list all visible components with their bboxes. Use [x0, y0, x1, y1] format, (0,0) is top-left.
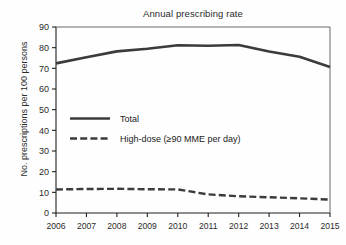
- x-tick-label: 2014: [290, 221, 309, 231]
- y-tick-label: 30: [39, 146, 49, 156]
- legend-label-high-dose: High-dose (≥90 MME per day): [120, 134, 241, 144]
- x-tick-label: 2007: [77, 221, 96, 231]
- y-tick-group: 0102030405060708090: [39, 22, 56, 218]
- x-tick-label: 2013: [260, 221, 279, 231]
- legend-label-total: Total: [120, 114, 139, 124]
- chart-figure: Annual prescribing rate No. prescription…: [0, 0, 346, 245]
- plot-area: 0102030405060708090 20062007200820092010…: [0, 0, 346, 245]
- x-tick-label: 2006: [46, 221, 65, 231]
- y-tick-label: 90: [39, 22, 49, 32]
- series-line-high-dose: [56, 189, 330, 200]
- y-tick-label: 80: [39, 43, 49, 53]
- x-tick-group: 2006200720082009201020112012201320142015: [46, 213, 339, 231]
- y-tick-label: 70: [39, 64, 49, 74]
- y-tick-label: 0: [44, 208, 49, 218]
- y-tick-label: 10: [39, 188, 49, 198]
- y-tick-label: 50: [39, 105, 49, 115]
- x-tick-label: 2015: [320, 221, 339, 231]
- x-tick-label: 2010: [168, 221, 187, 231]
- y-tick-label: 20: [39, 167, 49, 177]
- x-tick-label: 2011: [199, 221, 218, 231]
- legend: Total High-dose (≥90 MME per day): [70, 114, 241, 144]
- y-tick-label: 40: [39, 126, 49, 136]
- x-tick-label: 2012: [229, 221, 248, 231]
- y-tick-label: 60: [39, 84, 49, 94]
- series-line-total: [56, 45, 330, 67]
- x-tick-label: 2008: [107, 221, 126, 231]
- x-tick-label: 2009: [138, 221, 157, 231]
